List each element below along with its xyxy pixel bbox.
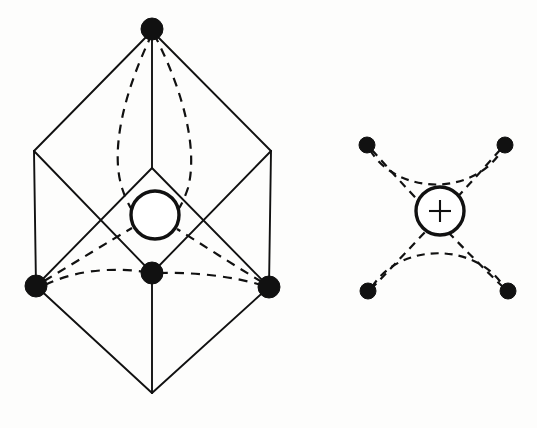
- figure-root: [0, 0, 537, 428]
- bond-bottomleft-to-bottomright-arc: [372, 253, 504, 287]
- left-atom-bottom-center: [141, 262, 163, 284]
- left-atom-left: [25, 275, 47, 297]
- crystal-structure-diagram: [0, 0, 537, 428]
- bond-left-atom-to-center: [44, 228, 132, 281]
- bond-topleft-to-topright-arc: [370, 150, 502, 185]
- edge-apex-to-upper-right: [152, 31, 271, 151]
- right-atom-bottom-left: [360, 283, 376, 299]
- left-atom-right: [258, 276, 280, 298]
- edge-upper-right-vertical: [269, 151, 271, 287]
- right-atom-top-right: [497, 137, 513, 153]
- edge-upper-left-vertical: [34, 151, 36, 286]
- left-panel-rhombohedral-unit-cell: [25, 18, 280, 393]
- edge-right-atom-to-bottom-apex: [152, 287, 269, 393]
- right-panel-coordination-polyhedron: [359, 137, 516, 299]
- left-central-atom: [131, 191, 179, 239]
- edge-left-atom-to-bottom-apex: [36, 286, 152, 393]
- right-atom-top-left: [359, 137, 375, 153]
- edge-apex-to-upper-left: [34, 31, 152, 151]
- left-atom-top-apex: [141, 18, 163, 40]
- bond-bottom-center-atom-to-right-atom: [159, 273, 261, 285]
- right-atom-bottom-right: [500, 283, 516, 299]
